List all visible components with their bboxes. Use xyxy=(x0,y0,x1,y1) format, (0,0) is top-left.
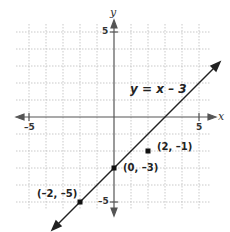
point-neg2-neg5 xyxy=(78,200,83,205)
x-axis-label: x xyxy=(218,110,224,123)
y-tick-5: 5 xyxy=(102,26,108,36)
point-label-neg2-neg5: (–2, –5) xyxy=(37,188,77,199)
x-tick-5: 5 xyxy=(196,122,202,132)
x-tick-neg5: –5 xyxy=(24,122,35,132)
point-label-0-neg3: (0, –3) xyxy=(123,162,158,173)
y-tick-neg5: –5 xyxy=(98,196,109,206)
point-label-2-neg1: (2, –1) xyxy=(157,141,192,152)
y-axis-label: y xyxy=(110,6,116,19)
point-2-neg1 xyxy=(146,149,151,154)
coordinate-plane xyxy=(0,0,230,232)
point-0-neg3 xyxy=(112,166,117,171)
equation-label: y = x – 3 xyxy=(130,82,187,96)
